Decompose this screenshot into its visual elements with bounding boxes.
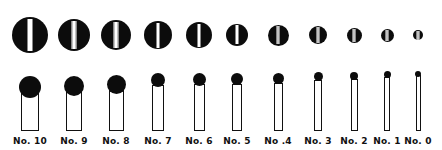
screw-size-label: No .4	[264, 136, 292, 146]
screw-size-label: No. 3	[304, 136, 332, 146]
screw-shaft	[384, 77, 390, 131]
slotted-screw-head-icon	[58, 19, 90, 51]
screw-head-side-icon	[314, 72, 323, 81]
screw-size-label: No. 6	[185, 136, 213, 146]
screw-shaft	[314, 80, 322, 131]
screw-slot	[417, 31, 420, 40]
screw-shaft	[152, 85, 164, 131]
screw-size-label: No. 10	[13, 136, 47, 146]
screw-slot	[386, 30, 389, 41]
screw-size-label: No. 5	[223, 136, 251, 146]
screw-size-label: No. 9	[60, 136, 88, 146]
slotted-screw-head-icon	[413, 30, 423, 40]
screw-head-side-icon	[107, 75, 126, 94]
screw-size-label: No. 0	[404, 136, 432, 146]
screw-head-side-icon	[19, 76, 41, 98]
screw-shaft	[109, 88, 124, 131]
screw-head-side-icon	[193, 73, 206, 86]
screw-size-label: No. 1	[373, 136, 401, 146]
screw-head-side-icon	[384, 71, 391, 78]
screw-shaft	[274, 83, 283, 131]
screw-slot	[235, 25, 239, 44]
screw-size-label: No. 2	[340, 136, 368, 146]
slotted-screw-head-icon	[381, 29, 394, 42]
screw-slot	[317, 27, 320, 43]
screw-size-label: No. 7	[144, 136, 172, 146]
slotted-screw-head-icon	[186, 22, 212, 48]
screw-shaft	[66, 90, 82, 131]
screw-head-side-icon	[151, 73, 165, 87]
screw-slot	[156, 23, 160, 48]
slotted-screw-head-icon	[309, 26, 327, 44]
screw-slot	[27, 19, 33, 51]
screw-slot	[197, 24, 201, 47]
screw-head-side-icon	[350, 72, 358, 80]
screw-shaft	[351, 79, 358, 131]
slotted-screw-head-icon	[144, 21, 172, 49]
screw-slot	[72, 21, 77, 49]
slotted-screw-head-icon	[268, 25, 289, 46]
screw-shaft	[232, 84, 242, 131]
screw-head-side-icon	[231, 73, 243, 85]
slotted-screw-head-icon	[101, 20, 131, 50]
screw-head-side-icon	[273, 73, 284, 84]
screw-slot	[277, 26, 280, 44]
screw-shaft	[416, 75, 421, 131]
screw-head-side-icon	[415, 71, 421, 77]
slotted-screw-head-icon	[12, 17, 48, 53]
screw-size-label: No. 8	[102, 136, 130, 146]
slotted-screw-head-icon	[226, 24, 248, 46]
slotted-screw-head-icon	[347, 28, 362, 43]
screw-head-side-icon	[64, 76, 84, 96]
screw-slot	[353, 29, 356, 42]
screw-slot	[114, 22, 119, 48]
screw-shaft	[194, 84, 205, 131]
